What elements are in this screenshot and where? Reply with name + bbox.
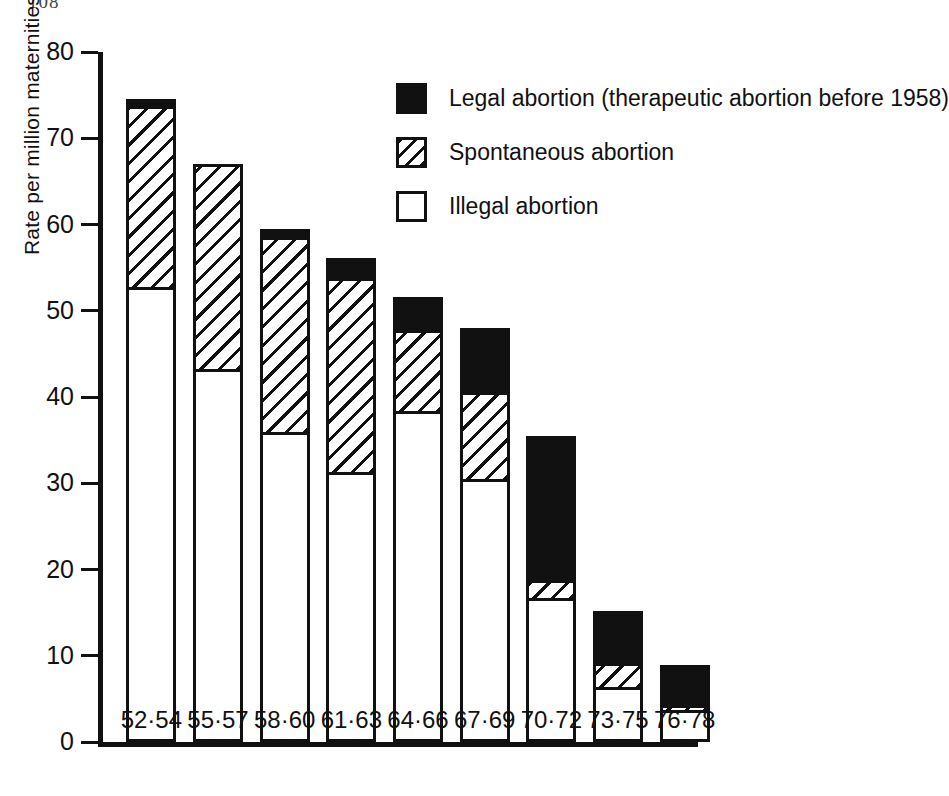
x-axis-tick-label: 67·69 bbox=[447, 706, 523, 734]
bar-segment-spontaneous bbox=[126, 106, 176, 290]
bar-segment-spontaneous bbox=[260, 237, 310, 435]
bar-segment-legal bbox=[526, 436, 576, 580]
bar[interactable] bbox=[193, 164, 243, 742]
bar-segment-legal bbox=[126, 99, 176, 106]
y-axis-tick: 60 bbox=[81, 223, 98, 226]
bar-segment-illegal bbox=[193, 372, 243, 742]
y-axis-tick-label: 20 bbox=[46, 557, 74, 582]
x-axis-tick-label: 58·60 bbox=[247, 706, 323, 734]
bar-segment-legal bbox=[460, 328, 510, 392]
y-axis-tick: 30 bbox=[81, 482, 98, 485]
y-axis-tick: 70 bbox=[81, 137, 98, 140]
x-axis-line bbox=[98, 742, 698, 747]
x-axis-tick-label: 64·66 bbox=[380, 706, 456, 734]
legend-swatch-legal bbox=[396, 83, 427, 114]
y-axis-tick-label: 80 bbox=[46, 39, 74, 64]
x-axis-tick-label: 61·63 bbox=[313, 706, 389, 734]
bar[interactable] bbox=[260, 229, 310, 742]
bar-segment-illegal bbox=[126, 290, 176, 742]
bar-segment-spontaneous bbox=[593, 663, 643, 691]
bar[interactable] bbox=[393, 297, 443, 742]
x-axis-tick-label: 70·72 bbox=[513, 706, 589, 734]
chart-legend: Legal abortion (therapeutic abortion bef… bbox=[396, 76, 882, 238]
legend-swatch-spont bbox=[396, 137, 427, 168]
bar-segment-illegal bbox=[260, 435, 310, 742]
y-axis-tick-label: 0 bbox=[60, 729, 74, 754]
bar[interactable] bbox=[526, 436, 576, 742]
y-axis-tick: 80 bbox=[81, 51, 98, 54]
bar-segment-spontaneous bbox=[393, 330, 443, 415]
bar-segment-legal bbox=[326, 258, 376, 278]
legend-item[interactable]: Illegal abortion bbox=[396, 184, 882, 228]
y-axis-tick: 0 bbox=[81, 741, 98, 744]
legend-swatch-illegal bbox=[396, 191, 427, 222]
y-axis-tick: 50 bbox=[81, 309, 98, 312]
bar-segment-legal bbox=[593, 611, 643, 663]
bar-segment-legal bbox=[260, 229, 310, 238]
bar-segment-illegal bbox=[393, 414, 443, 742]
bar-segment-legal bbox=[393, 297, 443, 330]
bar-segment-illegal bbox=[326, 475, 376, 742]
y-axis-tick: 20 bbox=[81, 568, 98, 571]
y-axis-tick-label: 60 bbox=[46, 212, 74, 237]
x-axis-tick-label: 52·54 bbox=[113, 706, 189, 734]
bar[interactable] bbox=[126, 99, 176, 742]
x-axis-tick-label: 76·78 bbox=[647, 706, 723, 734]
y-axis-tick-label: 30 bbox=[46, 470, 74, 495]
bar-segment-spontaneous bbox=[526, 580, 576, 602]
bar-segment-illegal bbox=[460, 482, 510, 742]
y-axis-tick-label: 70 bbox=[46, 125, 74, 150]
x-axis-tick-label: 55·57 bbox=[180, 706, 256, 734]
legend-item[interactable]: Legal abortion (therapeutic abortion bef… bbox=[396, 76, 882, 120]
x-axis-tick-label: 73·75 bbox=[580, 706, 656, 734]
legend-label: Spontaneous abortion bbox=[449, 139, 674, 166]
y-axis-tick-label: 40 bbox=[46, 384, 74, 409]
bar-segment-spontaneous bbox=[193, 164, 243, 372]
y-axis-tick-label: 50 bbox=[46, 298, 74, 323]
legend-item[interactable]: Spontaneous abortion bbox=[396, 130, 882, 174]
bar[interactable] bbox=[326, 258, 376, 742]
legend-label: Illegal abortion bbox=[449, 193, 599, 220]
y-axis-tick: 40 bbox=[81, 396, 98, 399]
y-axis-tick-label: 10 bbox=[46, 643, 74, 668]
y-axis-tick: 10 bbox=[81, 654, 98, 657]
bar[interactable] bbox=[460, 328, 510, 742]
y-axis-title: Rate per million maternities bbox=[20, 0, 44, 255]
y-axis-line bbox=[98, 52, 103, 742]
bar-segment-spontaneous bbox=[326, 278, 376, 475]
legend-label: Legal abortion (therapeutic abortion bef… bbox=[449, 85, 949, 112]
bar-segment-spontaneous bbox=[460, 392, 510, 483]
bar-segment-legal bbox=[660, 665, 710, 705]
